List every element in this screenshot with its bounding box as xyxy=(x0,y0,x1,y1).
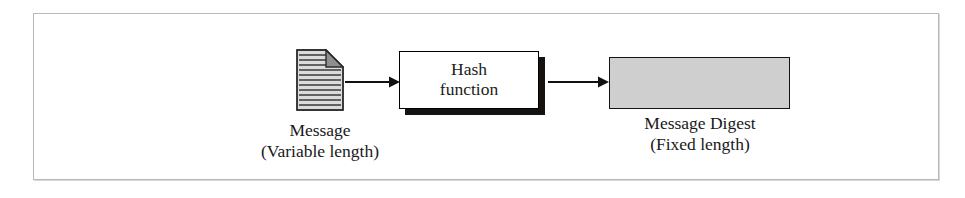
hash-function-label-line2: function xyxy=(440,80,498,100)
message-label-line1: Message xyxy=(220,120,420,141)
message-digest-label-line2: (Fixed length) xyxy=(600,134,800,155)
hash-function-label-line1: Hash xyxy=(451,60,487,80)
message-digest-caption: Message Digest (Fixed length) xyxy=(600,113,800,154)
figure-frame: Hash function Message (Variable length) … xyxy=(33,13,939,180)
arrow-message-to-hash xyxy=(345,74,401,90)
message-digest-box xyxy=(609,57,790,109)
message-label-line2: (Variable length) xyxy=(220,141,420,162)
message-caption: Message (Variable length) xyxy=(220,120,420,161)
document-page-icon xyxy=(296,49,344,111)
message-digest-label-line1: Message Digest xyxy=(600,113,800,134)
arrow-hash-to-digest xyxy=(548,74,610,90)
figure-canvas: Hash function Message (Variable length) … xyxy=(0,0,965,198)
hash-function-box: Hash function xyxy=(399,51,539,109)
